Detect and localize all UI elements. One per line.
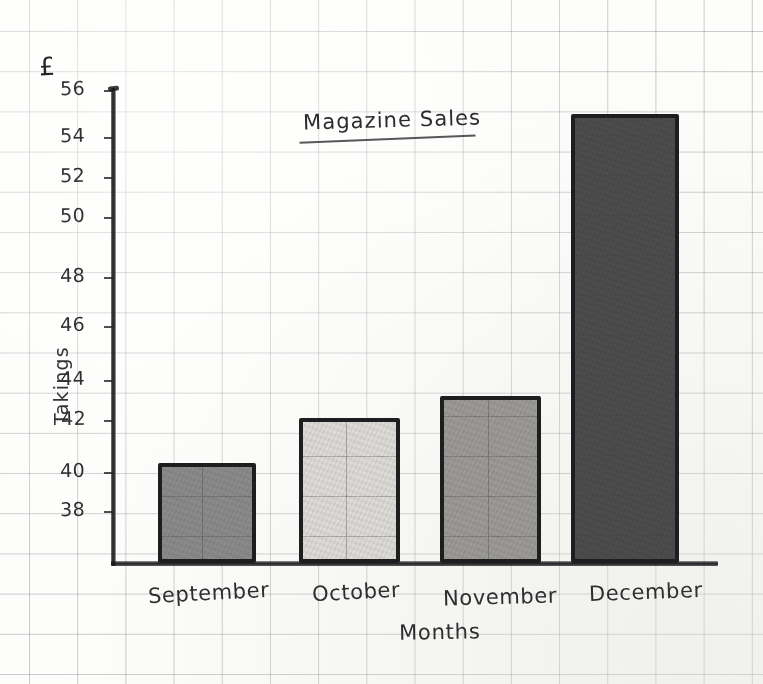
y-tick-label-50: 50 [60, 204, 86, 227]
y-tick-label-42: 42 [61, 407, 87, 430]
y-tick-mark [104, 217, 113, 219]
bar-october [299, 418, 400, 563]
y-tick-label-48: 48 [60, 264, 86, 287]
bar-gridline [444, 536, 537, 537]
bar-gridline [444, 456, 537, 457]
y-tick-label-40: 40 [60, 459, 86, 482]
y-tick-mark [104, 380, 113, 382]
x-tick-label-november: November [443, 584, 558, 611]
x-tick-label-december: December [589, 578, 703, 606]
bar-gridline [444, 416, 537, 417]
y-tick-label-54: 54 [60, 124, 86, 147]
bar-gridline [488, 400, 489, 559]
bar-gridline [303, 456, 396, 457]
y-tick-mark [104, 177, 113, 179]
chart-title: Magazine Sales [303, 106, 482, 135]
bar-gridline [575, 335, 675, 336]
y-tick-mark [104, 511, 113, 513]
bar-gridline [575, 215, 675, 216]
y-tick-mark [104, 472, 113, 474]
bar-december [571, 114, 679, 563]
bar-gridline [575, 175, 675, 176]
bar-gridline [575, 535, 675, 536]
bar-gridline [444, 496, 537, 497]
y-tick-mark [104, 277, 113, 279]
bar-gridline [575, 255, 675, 256]
bar-gridline [575, 495, 675, 496]
bar-gridline [346, 422, 347, 559]
y-tick-label-56: 56 [60, 77, 86, 100]
y-tick-mark [104, 137, 113, 139]
bar-gridline [575, 135, 675, 136]
bar-gridline [162, 536, 252, 537]
y-tick-mark [104, 326, 113, 328]
x-axis-title: Months [399, 619, 481, 644]
y-tick-label-44: 44 [60, 367, 86, 390]
bar-gridline [575, 295, 675, 296]
bar-gridline [303, 536, 396, 537]
bar-gridline [303, 496, 396, 497]
bar-gridline [162, 496, 252, 497]
bar-gridline [661, 118, 662, 559]
bar-september [158, 463, 256, 563]
y-tick-mark [104, 90, 113, 92]
bar-november [440, 396, 541, 563]
y-tick-mark [104, 420, 113, 422]
chart-page: £ Takings 56 54 52 50 48 46 44 42 40 38 … [0, 0, 763, 684]
bar-gridline [613, 118, 614, 559]
x-tick-label-october: October [311, 578, 400, 607]
bar-gridline [575, 455, 675, 456]
y-tick-label-46: 46 [60, 313, 86, 336]
bar-gridline [575, 375, 675, 376]
bar-gridline [575, 415, 675, 416]
currency-symbol: £ [38, 52, 55, 82]
y-tick-label-38: 38 [60, 498, 86, 521]
y-tick-label-52: 52 [60, 164, 86, 187]
chart-title-group: Magazine Sales [303, 106, 482, 135]
bar-gridline [202, 467, 203, 559]
